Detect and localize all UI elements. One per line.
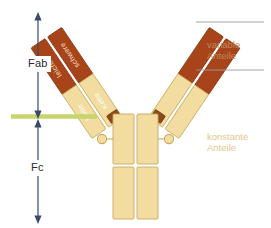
- antibody-diagram-svg: leichte schwere Kette Kette: [0, 0, 271, 228]
- fab-region-label: Fab: [28, 57, 48, 70]
- fc-right-ch2-domain: [137, 114, 158, 164]
- fc-right-ch3-domain: [137, 167, 158, 219]
- constant-region-annotation-line2: Anteile: [207, 142, 236, 153]
- left-glycosylation-icon: [97, 134, 106, 143]
- left-arm: leichte schwere Kette Kette: [31, 27, 123, 138]
- right-glycosylation-icon: [164, 134, 173, 143]
- variable-region-annotation-line1: variable: [207, 39, 240, 50]
- variable-region-annotation-line2: Anteile: [207, 50, 236, 61]
- fc-left-ch2-domain: [113, 114, 134, 164]
- constant-region-annotation-line1: konstante: [207, 131, 248, 142]
- fc-region-label: Fc: [31, 161, 44, 174]
- diagram-canvas: leichte schwere Kette Kette: [0, 0, 271, 228]
- fc-left-ch3-domain: [113, 167, 134, 219]
